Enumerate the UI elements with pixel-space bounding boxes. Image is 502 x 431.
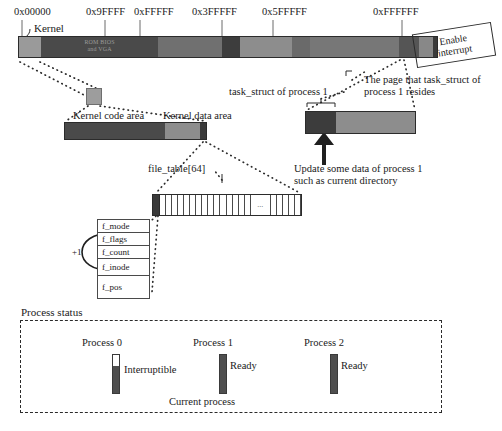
rom-bios-line1: ROM BIOS [41,39,158,46]
address-label-0x3FFFFF: 0x3FFFFF [192,6,237,18]
file-struct-field-f-mode: f_mode [98,220,149,233]
address-label-0xFFFFFF: 0xFFFFFF [373,6,419,18]
file-table-array: ... [152,194,302,216]
page-remainder-region [336,112,415,133]
kernel-code-area-label: Kernel code area [73,110,144,122]
increment-label: +1 [72,247,82,257]
page-label-line2: process 1 resides [364,86,435,98]
process-0-stack-fill [113,366,119,393]
file-table-cell [295,195,301,215]
address-ticks [22,20,402,36]
memory-segment-ext-1 [158,37,222,57]
file-struct-field-f-pos: f_pos [98,276,149,298]
task-struct-region [306,112,336,133]
file-struct-field-f-flags: f_flags [98,233,149,246]
file-struct-field-f-inode: f_inode [98,259,149,276]
process-0-name: Process 0 [82,337,122,348]
process-0-stack-bar [112,354,120,394]
file-struct-field-f-count: f_count [98,246,149,259]
kernel-detail-bar [64,122,207,140]
process-1-state: Ready [230,360,257,371]
memory-segment-ext-2 [222,37,240,57]
process-2-name: Process 2 [304,337,344,348]
memory-segment-rom-bios: ROM BIOS and VGA [41,37,158,57]
process-0-state: Interruptible [124,364,176,375]
memory-segment-ext-5 [310,37,400,57]
process-2-stack-fill [331,355,337,393]
fstruct-zoom-leaders [150,216,158,292]
update-note-line2: such as current directory [294,175,398,187]
memory-segment-ext-3 [240,37,292,57]
process-1-name: Process 1 [193,337,233,348]
file-table-slot-0 [153,195,160,215]
rom-bios-line2: and VGA [41,46,158,53]
process-1-stack-fill [220,355,226,393]
file-table-marker-segment [200,123,206,139]
task-struct-page-bar [305,111,416,134]
file-table-label: file_table[64] [148,163,205,175]
file-table-ellipsis: ... [251,195,271,215]
address-label-0xFFFFF: 0xFFFFF [134,6,174,18]
update-note-line1: Update some data of process 1 [294,163,423,175]
task-struct-pointer-label: task_struct of process 1 [229,86,328,98]
process-status-title: Process status [21,306,82,318]
task-struct-brace [307,99,335,107]
page-label-brace [346,71,352,76]
process-2-state: Ready [341,360,368,371]
kernel-region-chip [86,88,102,105]
file-struct-box: f_mode f_flags f_count f_inode f_pos [97,219,150,299]
memory-segment-ext-4 [292,37,310,57]
kernel-data-segment [165,123,200,139]
update-arrow [314,132,334,165]
address-label-0x9FFFF: 0x9FFFF [86,6,125,18]
process-1-stack-bar [219,354,227,394]
enable-interrupt-callout: Enable interrupt [412,22,496,68]
kernel-label: Kernel [34,22,64,34]
diagram-canvas: ROM BIOS and VGA 0x00000 0x9FFFF 0xFFFFF… [0,0,502,431]
rom-bios-caption: ROM BIOS and VGA [41,39,158,53]
current-process-label: Current process [169,396,235,408]
address-label-0x5FFFFF: 0x5FFFFF [262,6,307,18]
address-label-0x00000: 0x00000 [14,6,51,18]
filetable-label-leader [214,170,222,180]
memory-segment-kernel [19,37,41,57]
kernel-data-area-label: Kernel data area [163,110,232,122]
memory-map-bar: ROM BIOS and VGA [18,36,438,58]
kernel-code-segment [65,123,165,139]
page-label-line1: The page that task_struct of [364,74,481,86]
process-2-stack-bar [330,354,338,394]
